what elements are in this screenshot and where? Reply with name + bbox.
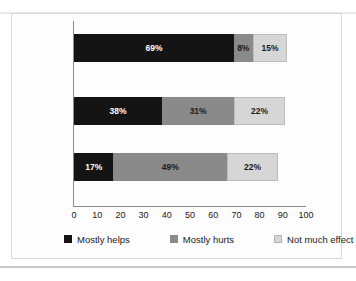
x-axis-tick-labels: 0 10 20 30 40 50 60 70 80 90 100	[74, 210, 306, 224]
plot-area: Computers 69% 8% 15% TV 38% 31% 22% Vide…	[12, 14, 343, 214]
bar-segment-not-much-effect: 15%	[253, 34, 288, 62]
bar-segment-hurts: 31%	[162, 97, 234, 125]
x-tick-label: 90	[270, 210, 296, 220]
bar-segment-hurts: 8%	[234, 34, 253, 62]
bar-segment-not-much-effect: 22%	[234, 97, 285, 125]
stacked-bar-tv: 38% 31% 22%	[74, 97, 285, 125]
bottom-divider	[0, 266, 356, 268]
legend-item-not-much-effect: Not much effect	[274, 234, 353, 245]
x-tick-label: 100	[293, 210, 319, 220]
stacked-bar-computers: 69% 8% 15%	[74, 34, 287, 62]
x-tick-label: 70	[223, 210, 249, 220]
chart-legend: Mostly helps Mostly hurts Not much effec…	[12, 228, 343, 250]
legend-label: Mostly helps	[77, 234, 130, 245]
bar-segment-not-much-effect: 22%	[227, 153, 278, 181]
bar-segment-hurts: 49%	[113, 153, 227, 181]
x-tick-label: 10	[84, 210, 110, 220]
stacked-bar-video-games: 17% 49% 22%	[74, 153, 278, 181]
x-tick-label: 60	[200, 210, 226, 220]
x-tick-label: 30	[131, 210, 157, 220]
legend-swatch-icon	[274, 235, 282, 243]
bar-segment-helps: 38%	[74, 97, 162, 125]
x-tick-label: 20	[107, 210, 133, 220]
legend-item-mostly-hurts: Mostly hurts	[170, 234, 234, 245]
x-axis-line	[73, 206, 306, 207]
x-tick-label: 40	[154, 210, 180, 220]
legend-swatch-icon	[170, 235, 178, 243]
x-tick-label: 50	[177, 210, 203, 220]
legend-item-mostly-helps: Mostly helps	[64, 234, 130, 245]
x-tick-label: 80	[247, 210, 273, 220]
x-tick-label: 0	[61, 210, 87, 220]
legend-swatch-icon	[64, 235, 72, 243]
legend-label: Mostly hurts	[183, 234, 234, 245]
chart-container: Computers 69% 8% 15% TV 38% 31% 22% Vide…	[11, 13, 342, 259]
bar-segment-helps: 17%	[74, 153, 113, 181]
legend-label: Not much effect	[287, 234, 353, 245]
bar-segment-helps: 69%	[74, 34, 234, 62]
